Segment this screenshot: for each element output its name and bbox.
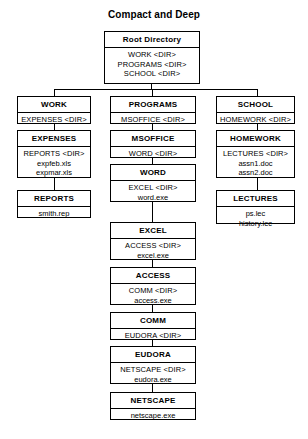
file-entry: expmar.xls — [20, 168, 88, 178]
node-title-programs: PROGRAMS — [111, 97, 195, 113]
connector-root-stem — [151, 84, 152, 90]
directory-entry: COMM <DIR> — [113, 286, 193, 296]
node-title-homework: HOMEWORK — [217, 131, 294, 147]
node-entries-excel: ACCESS <DIR>excel.exe — [111, 239, 195, 263]
node-excel: EXCELACCESS <DIR>excel.exe — [110, 222, 196, 260]
file-system-tree-diagram: Compact and Deep Root DirectoryWORK <DIR… — [0, 0, 308, 439]
node-entries-eudora: NETSCAPE <DIR>eudora.exe — [111, 363, 195, 387]
node-title-word: WORD — [111, 165, 195, 181]
directory-entry: WORD <DIR> — [113, 149, 193, 159]
directory-entry: NETSCAPE <DIR> — [113, 365, 193, 375]
node-expenses: EXPENSESREPORTS <DIR>expfeb.xlsexpmar.xl… — [17, 130, 91, 178]
node-work: WORKEXPENSES <DIR> — [17, 96, 91, 124]
node-entries-expenses: REPORTS <DIR>expfeb.xlsexpmar.xls — [18, 147, 90, 181]
node-entries-homework: LECTURES <DIR>assn1.docassn2.doc — [217, 147, 294, 181]
file-entry: eudora.exe — [113, 375, 193, 385]
connector-root-bus — [54, 89, 258, 90]
node-title-msoffice: MSOFFICE — [111, 131, 195, 147]
node-title-lectures: LECTURES — [217, 191, 294, 207]
node-title-comm: COMM — [111, 313, 195, 329]
connector-drop-work — [54, 89, 55, 96]
diagram-title: Compact and Deep — [0, 9, 308, 20]
node-school: SCHOOLHOMEWORK <DIR> — [216, 96, 295, 124]
directory-entry: PROGRAMS <DIR> — [107, 60, 197, 70]
node-lectures: LECTURESps.lechistory.lec — [216, 190, 295, 224]
file-entry: smith.rep — [20, 209, 88, 219]
file-entry: history.lec — [219, 219, 292, 229]
node-title-work: WORK — [18, 97, 90, 113]
file-entry: word.exe — [113, 193, 193, 203]
node-entries-comm: EUDORA <DIR> — [111, 329, 195, 344]
directory-entry: REPORTS <DIR> — [20, 149, 88, 159]
node-entries-programs: MSOFFICE <DIR> — [111, 113, 195, 128]
node-root-directory: Root DirectoryWORK <DIR>PROGRAMS <DIR>SC… — [104, 31, 200, 84]
file-entry: assn2.doc — [219, 168, 292, 178]
file-entry: ps.lec — [219, 209, 292, 219]
directory-entry: MSOFFICE <DIR> — [113, 115, 193, 125]
directory-entry: EXPENSES <DIR> — [20, 115, 88, 125]
file-entry: netscape.exe — [113, 411, 193, 421]
node-entries-reports: smith.rep — [18, 207, 90, 222]
directory-entry: WORK <DIR> — [107, 50, 197, 60]
file-entry: access.exe — [113, 296, 193, 306]
node-entries-netscape: netscape.exe — [111, 409, 195, 424]
directory-entry: SCHOOL <DIR> — [107, 69, 197, 79]
node-programs: PROGRAMSMSOFFICE <DIR> — [110, 96, 196, 124]
node-title-netscape: NETSCAPE — [111, 393, 195, 409]
node-msoffice: MSOFFICEWORD <DIR> — [110, 130, 196, 158]
node-entries-root-directory: WORK <DIR>PROGRAMS <DIR>SCHOOL <DIR> — [105, 48, 199, 82]
node-title-school: SCHOOL — [217, 97, 294, 113]
file-entry: excel.exe — [113, 251, 193, 261]
node-title-eudora: EUDORA — [111, 347, 195, 363]
node-title-expenses: EXPENSES — [18, 131, 90, 147]
file-entry: assn1.doc — [219, 159, 292, 169]
node-title-access: ACCESS — [111, 268, 195, 284]
connector-drop-school — [257, 89, 258, 96]
file-entry: expfeb.xls — [20, 159, 88, 169]
directory-entry: HOMEWORK <DIR> — [219, 115, 292, 125]
node-word: WORDEXCEL <DIR>word.exe — [110, 164, 196, 202]
directory-entry: EUDORA <DIR> — [113, 331, 193, 341]
node-netscape: NETSCAPEnetscape.exe — [110, 392, 196, 420]
node-access: ACCESSCOMM <DIR>access.exe — [110, 267, 196, 305]
node-title-reports: REPORTS — [18, 191, 90, 207]
node-entries-access: COMM <DIR>access.exe — [111, 284, 195, 308]
directory-entry: EXCEL <DIR> — [113, 183, 193, 193]
node-homework: HOMEWORKLECTURES <DIR>assn1.docassn2.doc — [216, 130, 295, 178]
directory-entry: ACCESS <DIR> — [113, 241, 193, 251]
node-reports: REPORTSsmith.rep — [17, 190, 91, 218]
node-title-excel: EXCEL — [111, 223, 195, 239]
node-entries-msoffice: WORD <DIR> — [111, 147, 195, 162]
node-comm: COMMEUDORA <DIR> — [110, 312, 196, 340]
connector-drop-programs — [152, 89, 153, 96]
connector-word-excel — [152, 202, 153, 222]
node-entries-work: EXPENSES <DIR> — [18, 113, 90, 128]
node-entries-lectures: ps.lechistory.lec — [217, 207, 294, 231]
node-title-root-directory: Root Directory — [105, 32, 199, 48]
node-entries-word: EXCEL <DIR>word.exe — [111, 181, 195, 205]
directory-entry: LECTURES <DIR> — [219, 149, 292, 159]
node-eudora: EUDORANETSCAPE <DIR>eudora.exe — [110, 346, 196, 384]
node-entries-school: HOMEWORK <DIR> — [217, 113, 294, 128]
